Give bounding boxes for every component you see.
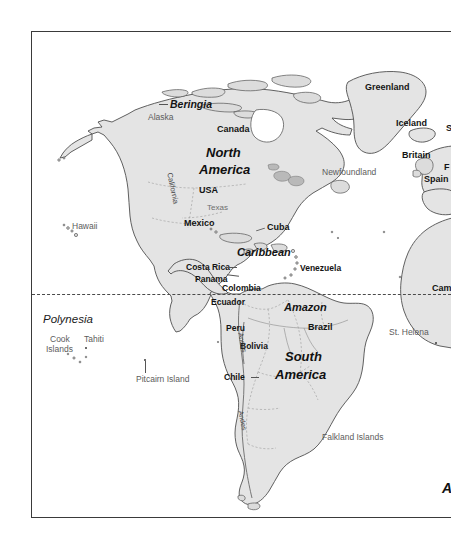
chile-leader: [251, 377, 259, 378]
map-canvas: .land{fill:#e4e4e4;stroke:#4f4f4f;stroke…: [32, 32, 451, 518]
tahiti-dot: [85, 347, 87, 349]
map-frame: .land{fill:#e4e4e4;stroke:#4f4f4f;stroke…: [31, 31, 451, 518]
pitcairn-dot: [144, 359, 146, 361]
map-landmass-svg: .land{fill:#e4e4e4;stroke:#4f4f4f;stroke…: [32, 32, 451, 518]
st-helena-dot: [435, 342, 437, 344]
costa-rica-leader: [225, 267, 237, 268]
beringia-leader: [159, 104, 168, 105]
equator-line: [32, 294, 451, 295]
map-figure: .land{fill:#e4e4e4;stroke:#4f4f4f;stroke…: [0, 0, 451, 542]
pitcairn-leader: [145, 361, 146, 373]
